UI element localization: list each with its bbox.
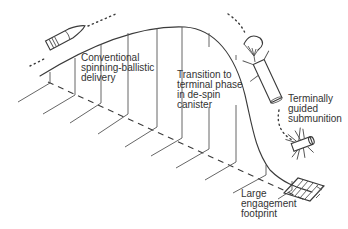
projectile-path-dots xyxy=(30,58,46,66)
label-transition: Transition to terminal phase in de-spin … xyxy=(177,69,245,110)
trajectory-diagram: Conventional spinning-ballistic delivery… xyxy=(0,0,348,229)
projectile-path-dots-ahead xyxy=(88,13,118,26)
parachute-canister-icon xyxy=(241,36,290,109)
label-conventional: Conventional spinning-ballistic delivery xyxy=(81,52,157,83)
label-guided-submunition: Terminally guided submunition xyxy=(288,93,342,124)
projectile-shell-icon xyxy=(46,21,88,50)
ground-ticks xyxy=(18,83,292,199)
label-footprint: Large engagement footprint xyxy=(241,188,299,219)
submunition-icon xyxy=(283,125,318,162)
canister-path-dots xyxy=(228,14,245,33)
